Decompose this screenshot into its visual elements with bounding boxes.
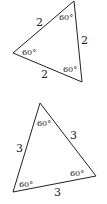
- angle-label: 60°: [63, 65, 77, 74]
- angle-label: 60°: [19, 180, 33, 189]
- triangle-2-shape: [13, 103, 96, 192]
- triangle-1: 2 2 2 60° 60° 60°: [13, 1, 88, 82]
- side-label: 3: [16, 142, 23, 155]
- angle-label: 60°: [70, 169, 84, 178]
- side-label: 2: [36, 16, 43, 29]
- angle-label: 60°: [59, 13, 73, 22]
- triangle-2: 3 3 3 60° 60° 60°: [13, 103, 96, 199]
- side-label: 2: [81, 34, 88, 47]
- angle-label: 60°: [22, 48, 36, 57]
- angle-label: 60°: [37, 119, 51, 128]
- side-label: 3: [70, 129, 77, 142]
- diagram-canvas: 2 2 2 60° 60° 60° 3 3 3 60° 60° 60°: [0, 0, 107, 204]
- side-label: 2: [41, 68, 48, 81]
- side-label: 3: [54, 186, 61, 199]
